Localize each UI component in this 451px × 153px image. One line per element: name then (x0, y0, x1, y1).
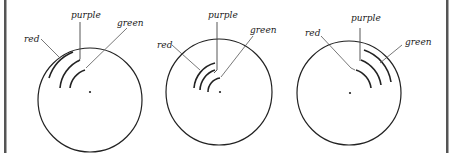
leader-purple (214, 22, 217, 73)
label-red: red (305, 28, 321, 38)
panel-2: red purple green (157, 10, 277, 145)
center-dot (219, 91, 221, 93)
panel-1: red purple green (24, 10, 144, 152)
label-red: red (24, 34, 40, 44)
arc-green (70, 70, 85, 88)
center-dot (349, 92, 351, 94)
label-purple: purple (208, 10, 238, 20)
panel-3: red purple green (297, 13, 432, 145)
right-border (446, 0, 449, 153)
label-green: green (405, 37, 432, 47)
arc-green (364, 50, 391, 82)
arc-red (49, 52, 73, 78)
arc-red (356, 70, 371, 88)
arc-purple (361, 60, 381, 85)
leader-red (172, 45, 200, 70)
arc-purple (200, 70, 215, 90)
label-green: green (117, 18, 144, 28)
label-purple: purple (71, 10, 101, 20)
label-purple: purple (351, 13, 381, 23)
diagram-canvas: red purple green red purple green red pu… (0, 0, 451, 153)
leader-red (41, 39, 60, 58)
center-dot (89, 91, 91, 93)
label-red: red (157, 40, 173, 50)
label-green: green (250, 25, 277, 35)
left-border (4, 0, 7, 153)
arc-green (208, 78, 220, 92)
arc-red (194, 63, 215, 88)
leader-purple (78, 22, 80, 62)
